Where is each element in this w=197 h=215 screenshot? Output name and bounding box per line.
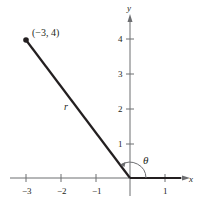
- y-axis-label: y: [126, 3, 131, 13]
- point-marker: [23, 37, 29, 43]
- terminal-side-r: [26, 40, 130, 178]
- x-tick-label: 1: [163, 186, 168, 196]
- y-tick-label: 3: [118, 69, 123, 79]
- x-tick-label: −2: [57, 186, 67, 196]
- angle-label-theta: θ: [143, 154, 149, 166]
- y-axis-arrow-icon: [128, 14, 133, 22]
- segment-label-r: r: [64, 101, 68, 112]
- point-label: (−3, 4): [32, 27, 59, 39]
- x-tick-label: −1: [92, 186, 102, 196]
- coordinate-plane: y x −3 −2 −1 1 1 2 3 4 (−3, 4) r θ: [0, 0, 197, 215]
- x-tick-label: −3: [22, 186, 32, 196]
- y-tick-label: 1: [118, 139, 123, 149]
- y-axis: [126, 14, 134, 196]
- y-tick-label: 4: [118, 34, 123, 44]
- y-tick-label: 2: [118, 104, 123, 114]
- x-axis-label: x: [188, 174, 193, 184]
